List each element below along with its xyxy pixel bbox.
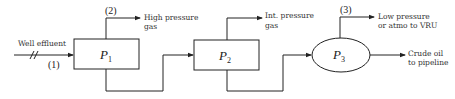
int-pressure-gas-label-line2: gas — [265, 21, 278, 30]
stream-number-2: (2) — [105, 5, 117, 17]
low-pressure-gas-label-line1: Low pressure — [378, 12, 430, 21]
process-p1: P1 — [74, 39, 139, 69]
well-effluent-label: Well effluent — [18, 39, 66, 48]
low-pressure-gas-label-line2: or atmo to VRU — [378, 21, 437, 30]
p1-label: P1 — [99, 47, 112, 64]
low-pressure-gas-arrow — [340, 17, 374, 38]
int-pressure-gas-arrow — [227, 18, 262, 40]
low-pressure-gas-stream: (3) Low pressure or atmo to VRU — [340, 4, 437, 38]
high-pressure-gas-arrow — [106, 18, 140, 39]
crude-oil-label-line1: Crude oil — [408, 49, 444, 58]
p2-to-p3-connector — [227, 55, 311, 91]
high-pressure-gas-label-line2: gas — [144, 22, 157, 31]
stream-number-1: (1) — [48, 59, 60, 71]
high-pressure-gas-label-line1: High pressure — [144, 13, 199, 22]
int-pressure-gas-stream: Int. pressure gas — [227, 11, 315, 40]
p2-label: P2 — [218, 48, 231, 65]
process-p2: P2 — [194, 40, 259, 70]
crude-oil-stream: Crude oil to pipeline — [370, 49, 449, 67]
well-effluent-stream: Well effluent (1) — [14, 39, 73, 71]
p3-label: P3 — [332, 47, 345, 64]
stream-number-3: (3) — [340, 4, 352, 16]
crude-oil-label-line2: to pipeline — [408, 58, 449, 67]
process-p3: P3 — [312, 38, 370, 72]
high-pressure-gas-stream: (2) High pressure gas — [105, 5, 199, 39]
p1-to-p2-connector — [106, 55, 193, 91]
int-pressure-gas-label-line1: Int. pressure — [265, 11, 315, 20]
process-flow-diagram: Well effluent (1) P1 (2) High pressure g… — [0, 0, 455, 99]
